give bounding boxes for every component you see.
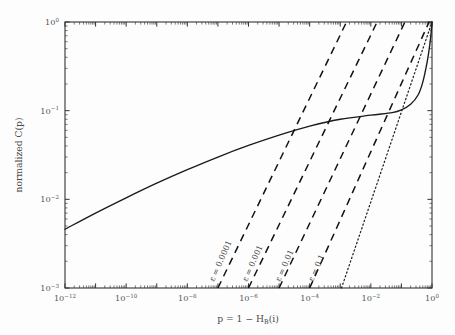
y-axis-title: normalized C(p) [13, 117, 24, 192]
figure-background [0, 0, 455, 335]
chart-figure: 10−1210−1010−810−610−410−2100 10010−110−… [0, 0, 455, 335]
chart-svg: 10−1210−1010−810−610−410−2100 10010−110−… [0, 0, 455, 335]
